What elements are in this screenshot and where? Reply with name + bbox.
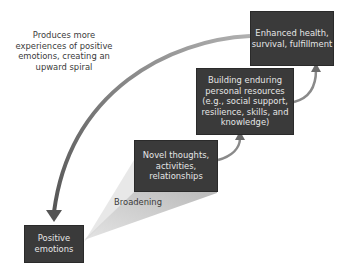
novel-to-building-arrow <box>218 138 240 160</box>
building-to-enhanced-arrow <box>294 70 316 102</box>
node-novel-thoughts: Novel thoughts, activities, relationship… <box>134 140 218 192</box>
down-arrowhead-icon <box>46 210 62 222</box>
node-building-resources: Building enduring personal resources (e.… <box>196 68 294 135</box>
node-enhanced-health: Enhanced health, survival, fulfillment <box>250 11 334 66</box>
node-positive-emotions-label: Positive emotions <box>35 233 74 254</box>
node-building-resources-label: Building enduring personal resources (e.… <box>202 75 289 128</box>
feedback-label: Produces more experiences of positive em… <box>14 30 114 72</box>
node-enhanced-health-label: Enhanced health, survival, fulfillment <box>252 28 333 49</box>
broadening-label: Broadening <box>108 197 168 208</box>
node-positive-emotions: Positive emotions <box>24 225 84 263</box>
node-novel-thoughts-label: Novel thoughts, activities, relationship… <box>143 150 209 182</box>
